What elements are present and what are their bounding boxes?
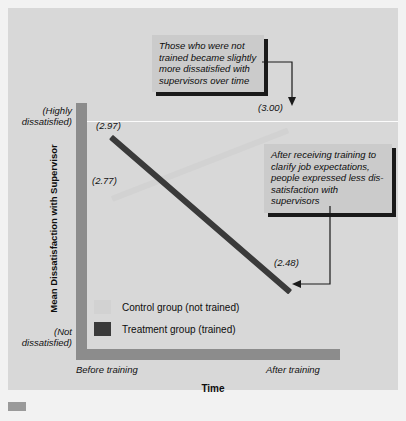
y-axis-label-top: (Highly dissatisfied) bbox=[10, 105, 72, 127]
y-axis-title: Mean Dissatisfaction with Supervisor bbox=[48, 124, 59, 334]
callout-control-line3: more dissatisfied with bbox=[159, 63, 257, 75]
legend-swatch-control-icon bbox=[94, 300, 111, 314]
y-axis-label-bottom-line2: dissatisfied) bbox=[10, 337, 72, 348]
callout-control-line4: supervisors over time bbox=[159, 75, 257, 87]
value-label-control-after: (3.00) bbox=[258, 102, 283, 113]
callout-treatment-group: After receiving training to clarify job … bbox=[264, 144, 392, 213]
value-label-treatment-before: (2.97) bbox=[96, 120, 121, 131]
callout-control-line1: Those who were not bbox=[159, 40, 257, 52]
legend-swatch-treatment-icon bbox=[94, 322, 111, 336]
legend-item-control: Control group (not trained) bbox=[94, 300, 239, 314]
footer-mark bbox=[8, 402, 26, 411]
callout-control-line2: trained became slightly bbox=[159, 52, 257, 64]
y-axis-label-bottom: (Not dissatisfied) bbox=[10, 326, 72, 348]
y-axis bbox=[76, 103, 87, 360]
figure-canvas: (Highly dissatisfied) (Not dissatisfied)… bbox=[0, 0, 406, 421]
legend-label-treatment: Treatment group (trained) bbox=[122, 324, 236, 335]
x-axis bbox=[76, 349, 340, 360]
callout-control-group: Those who were not trained became slight… bbox=[152, 35, 264, 92]
x-axis-label-before: Before training bbox=[76, 364, 138, 375]
callout-treatment-line4: satisfaction with supervisors bbox=[271, 184, 385, 207]
legend-label-control: Control group (not trained) bbox=[122, 302, 239, 313]
value-label-treatment-after: (2.48) bbox=[274, 257, 299, 268]
x-axis-title: Time bbox=[158, 383, 268, 394]
legend: Control group (not trained) Treatment gr… bbox=[94, 300, 239, 344]
chart-plate: (Highly dissatisfied) (Not dissatisfied)… bbox=[8, 8, 398, 390]
callout-treatment-line2: clarify job expectations, bbox=[271, 161, 385, 173]
y-axis-label-top-line1: (Highly bbox=[10, 105, 72, 116]
x-axis-label-after: After training bbox=[266, 364, 320, 375]
y-axis-label-bottom-line1: (Not bbox=[10, 326, 72, 337]
value-label-control-before: (2.77) bbox=[92, 175, 117, 186]
callout-treatment-line3: people expressed less dis- bbox=[271, 172, 385, 184]
legend-item-treatment: Treatment group (trained) bbox=[94, 322, 239, 336]
y-axis-label-top-line2: dissatisfied) bbox=[10, 116, 72, 127]
gridline-top bbox=[87, 121, 398, 122]
callout-treatment-line1: After receiving training to bbox=[271, 149, 385, 161]
